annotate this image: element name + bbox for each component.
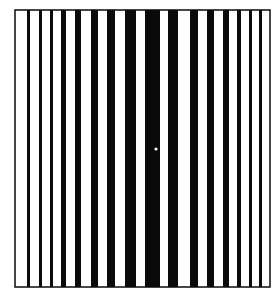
stripe-15 — [249, 10, 252, 287]
stripe-1 — [27, 10, 30, 287]
stripe-7 — [107, 10, 115, 287]
stripe-14 — [237, 10, 241, 287]
stripe-2 — [39, 10, 42, 287]
stripe-12 — [207, 10, 214, 287]
stripe-grating-figure — [0, 0, 278, 299]
center-fixation-dot — [154, 147, 157, 150]
stripe-3 — [50, 10, 53, 287]
stripe-5 — [75, 10, 81, 287]
stripe-10 — [168, 10, 178, 287]
stripe-16 — [259, 10, 262, 287]
stripe-11 — [190, 10, 198, 287]
stripe-8 — [125, 10, 136, 287]
stripe-6 — [91, 10, 98, 287]
stripe-13 — [223, 10, 229, 287]
stripe-9 — [145, 10, 160, 287]
stripe-4 — [61, 10, 66, 287]
